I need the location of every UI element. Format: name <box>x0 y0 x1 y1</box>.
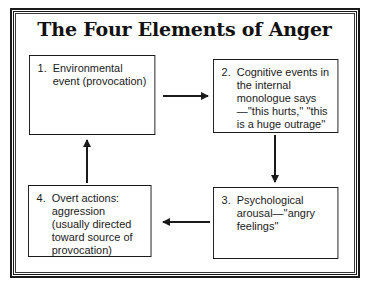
flow-arrows <box>0 0 369 284</box>
